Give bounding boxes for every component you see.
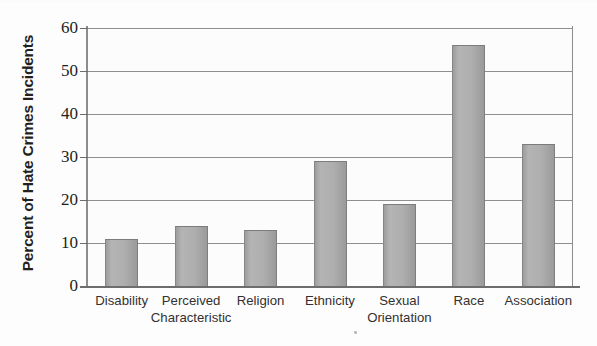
y-tick-mark-50 [80, 71, 88, 72]
x-label-association: Association [489, 293, 587, 310]
y-tick-label-50: 50 [40, 62, 78, 79]
bar-religion[interactable] [244, 230, 277, 286]
y-tick-label-40: 40 [40, 105, 78, 122]
plot-right-border [572, 26, 573, 288]
y-tick-mark-40 [80, 114, 88, 115]
y-tick-mark-0 [80, 286, 88, 287]
scan-artifact-top [0, 0, 597, 2]
y-tick-label-60: 60 [40, 19, 78, 36]
y-tick-label-20: 20 [40, 191, 78, 208]
gridline-50 [87, 71, 573, 72]
gridline-30 [87, 157, 573, 158]
bar-association[interactable] [522, 144, 555, 286]
bar-race[interactable] [452, 45, 485, 286]
y-tick-mark-20 [80, 200, 88, 201]
gridline-60 [87, 28, 573, 29]
y-tick-mark-60 [80, 28, 88, 29]
y-tick-mark-30 [80, 157, 88, 158]
x-axis-line [80, 286, 580, 288]
y-tick-label-0: 0 [40, 277, 78, 294]
bar-chart: Percent of Hate Crimes Incidents 60 50 4… [0, 0, 597, 346]
bar-ethnicity[interactable] [314, 161, 347, 286]
y-tick-label-30: 30 [40, 148, 78, 165]
bar-perceived-characteristic[interactable] [175, 226, 208, 286]
y-tick-label-10: 10 [40, 234, 78, 251]
bar-disability[interactable] [105, 239, 138, 286]
y-tick-mark-10 [80, 243, 88, 244]
bar-sexual-orientation[interactable] [383, 204, 416, 286]
gridline-40 [87, 114, 573, 115]
scan-artifact-speck [354, 331, 357, 334]
